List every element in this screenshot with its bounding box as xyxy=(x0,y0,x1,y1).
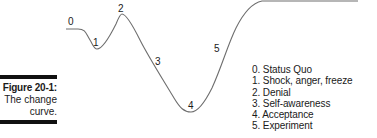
legend-item-4: 4. Acceptance xyxy=(252,109,353,120)
legend-item-1: 1. Shock, anger, freeze xyxy=(252,75,353,86)
curve-point-label-3: 3 xyxy=(155,56,161,67)
legend-item-2: 2. Denial xyxy=(252,87,353,98)
legend-item-5: 5. Experiment xyxy=(252,120,353,131)
legend-item-0: 0. Status Quo xyxy=(252,64,353,75)
curve-legend: 0. Status Quo 1. Shock, anger, freeze 2.… xyxy=(252,64,353,132)
curve-point-label-4: 4 xyxy=(188,100,194,111)
legend-item-3: 3. Self-awareness xyxy=(252,98,353,109)
curve-point-label-2: 2 xyxy=(118,3,124,14)
curve-point-label-5: 5 xyxy=(214,43,220,54)
curve-point-label-0: 0 xyxy=(68,16,74,27)
curve-point-label-1: 1 xyxy=(93,37,99,48)
